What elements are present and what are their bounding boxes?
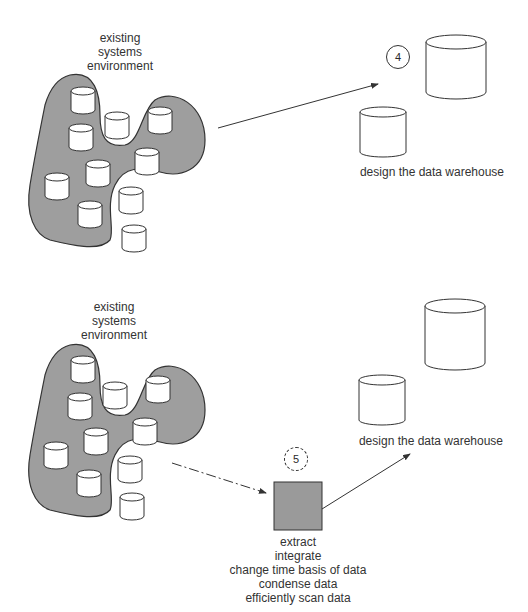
arrow-to-warehouse-1	[218, 84, 378, 128]
process-step: efficiently scan data	[218, 591, 378, 605]
warehouse-cylinder-large-2	[425, 299, 485, 370]
label-line: systems	[64, 314, 164, 328]
process-box	[274, 482, 322, 530]
warehouse-cylinder-small-2	[359, 375, 405, 425]
process-step: extract	[218, 535, 378, 549]
process-label: extract integrate change time basis of d…	[218, 535, 378, 605]
warehouse-cylinder-small-1	[360, 107, 406, 157]
source-label-1: existing systems environment	[70, 31, 170, 73]
process-step: condense data	[218, 577, 378, 591]
label-line: environment	[64, 328, 164, 342]
step-number-badge-4: 4	[386, 45, 410, 69]
target-label-1: design the data warehouse	[357, 165, 507, 179]
process-step: change time basis of data	[218, 563, 378, 577]
existing-systems-blob-2	[29, 344, 205, 516]
label-line: systems	[70, 45, 170, 59]
existing-systems-blob	[29, 74, 205, 246]
step-number-badge-5: 5	[284, 447, 308, 471]
source-label-2: existing systems environment	[64, 300, 164, 342]
process-step: integrate	[218, 549, 378, 563]
arrow-to-process	[172, 463, 266, 493]
label-line: existing	[70, 31, 170, 45]
arrow-to-warehouse-2	[322, 454, 410, 509]
warehouse-cylinder-large-1	[426, 35, 486, 99]
label-line: environment	[70, 59, 170, 73]
target-label-2: design the data warehouse	[356, 434, 506, 448]
label-line: existing	[64, 300, 164, 314]
